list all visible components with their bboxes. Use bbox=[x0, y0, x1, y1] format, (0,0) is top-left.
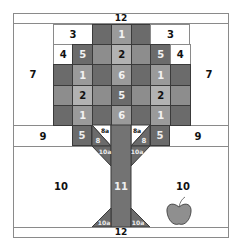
left-branch-8-label: 8 bbox=[96, 137, 101, 145]
left-flare-10a-label: 10a bbox=[99, 148, 111, 155]
left-branch-8a-label: 8a bbox=[101, 127, 109, 134]
left-root-10a-label: 10a bbox=[98, 219, 110, 226]
trunk bbox=[111, 125, 131, 227]
right-branch-8a-label: 8a bbox=[133, 127, 141, 134]
right-flare-10a-label: 10a bbox=[131, 148, 143, 155]
bottom-strip-label: 12 bbox=[115, 227, 128, 237]
tree-trunk-branches-svg bbox=[0, 0, 237, 248]
bottom-border-strip: 12 bbox=[13, 227, 229, 238]
right-branch-8-label: 8 bbox=[142, 137, 147, 145]
apple-icon bbox=[167, 197, 191, 224]
right-root-10a-label: 10a bbox=[132, 219, 144, 226]
trunk-11-label: 11 bbox=[114, 181, 128, 192]
